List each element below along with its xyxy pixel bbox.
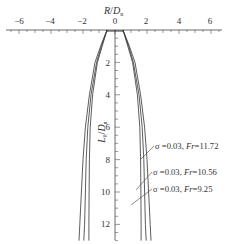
x-tick-label: 4	[177, 16, 182, 26]
legend-label-fr-9-25: σ =0.03, Fr=9.25	[153, 184, 212, 194]
y-axis-title: Lk/Dn	[96, 121, 108, 143]
y-tick-label: 10	[101, 187, 111, 197]
x-tick-label: −6	[14, 16, 24, 26]
x-tick-label: 2	[144, 16, 149, 26]
legend-label-fr-10-56: σ =0.03, Fr=10.56	[153, 167, 217, 177]
y-tick-label: 4	[106, 90, 111, 100]
x-tick-label: −4	[45, 16, 55, 26]
x-tick-label: −2	[77, 16, 87, 26]
y-tick-label: 12	[101, 219, 110, 229]
cavity-profile-chart: −6 −4 −2 0 2 4 6 R/Dn 2 4 6 8 10 12 Lk/D…	[0, 0, 230, 244]
x-axis-title: R/Dn	[103, 5, 123, 17]
y-tick-label: 8	[106, 155, 111, 165]
x-axis-tick-labels: −6 −4 −2 0 2 4 6	[14, 16, 213, 26]
x-tick-label: 0	[113, 16, 118, 26]
legend-label-fr-11-72: σ =0.03, Fr=11.72	[155, 141, 218, 151]
y-axis-ticks	[115, 38, 120, 241]
cavity-curve-right	[123, 30, 151, 241]
y-tick-label: 2	[106, 58, 111, 68]
cavity-curve-right	[123, 30, 141, 241]
x-tick-label: 6	[208, 16, 213, 26]
